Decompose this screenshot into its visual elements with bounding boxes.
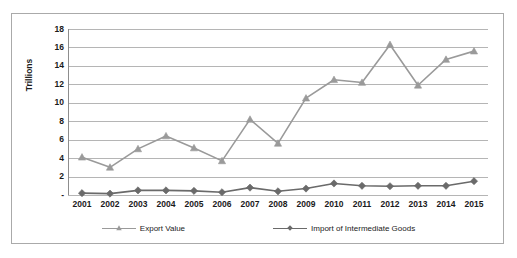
y-axis-tick-label: 12 — [42, 80, 64, 89]
y-axis-tick-label: 2 — [42, 172, 64, 181]
y-axis-tick-label: 8 — [42, 117, 64, 126]
y-axis-tick-label: 18 — [42, 25, 64, 34]
data-point-marker — [106, 190, 113, 197]
data-point-marker — [218, 189, 225, 196]
y-axis-tick-label: 6 — [42, 135, 64, 144]
series-import-intermediate-goods — [78, 178, 477, 198]
y-axis-title: Trillions — [24, 40, 34, 110]
data-point-marker — [274, 188, 281, 195]
data-point-marker — [302, 185, 309, 192]
legend-entry-export-value[interactable]: Export Value — [102, 223, 185, 233]
data-point-marker — [470, 48, 477, 54]
data-point-marker — [190, 187, 197, 194]
data-point-marker — [162, 187, 169, 194]
series-line — [82, 45, 474, 168]
data-point-marker — [386, 183, 393, 190]
chart-figure: Trillions -24681012141618 20012002200320… — [11, 13, 504, 244]
chart-legend: Export ValueImport of Intermediate Goods — [12, 219, 505, 237]
legend-label: Import of Intermediate Goods — [311, 224, 415, 233]
data-point-marker — [330, 180, 337, 187]
data-point-marker — [358, 182, 365, 189]
triangle-marker-icon — [102, 223, 136, 233]
y-axis-tick-label: 16 — [42, 43, 64, 52]
data-point-marker — [302, 95, 309, 101]
plot-area — [68, 29, 488, 195]
x-axis-tick-labels: 2001200220032004200520062007200820092010… — [68, 199, 488, 215]
y-axis-tick-label: 14 — [42, 61, 64, 70]
data-point-marker — [162, 132, 169, 138]
data-point-marker — [246, 116, 253, 122]
data-point-marker — [386, 41, 393, 47]
series-export-value — [78, 41, 477, 170]
data-point-marker — [442, 182, 449, 189]
series-layer — [68, 29, 488, 195]
data-point-marker — [470, 178, 477, 185]
y-axis-tick-label: 10 — [42, 98, 64, 107]
x-axis-tick-label: 2015 — [454, 199, 494, 209]
data-point-marker — [414, 182, 421, 189]
data-point-marker — [246, 184, 253, 191]
legend-entry-import-intermediate-goods[interactable]: Import of Intermediate Goods — [273, 223, 415, 233]
legend-label: Export Value — [140, 224, 185, 233]
data-point-marker — [134, 187, 141, 194]
diamond-marker-icon — [273, 223, 307, 233]
data-point-marker — [78, 154, 85, 160]
plot-area-wrapper: Trillions -24681012141618 20012002200320… — [12, 14, 505, 245]
y-axis-tick-labels: -24681012141618 — [42, 14, 64, 245]
y-axis-tick-label: 4 — [42, 154, 64, 163]
y-axis-tick-label: - — [42, 191, 64, 200]
